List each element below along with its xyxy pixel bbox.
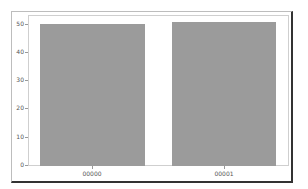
- x-tick-mark: [224, 166, 225, 169]
- y-tick-mark: [25, 137, 28, 138]
- y-tick-mark: [25, 165, 28, 166]
- y-tick-mark: [25, 52, 28, 53]
- y-tick-mark: [25, 108, 28, 109]
- bar-00001: [172, 22, 276, 166]
- y-tick-mark: [25, 24, 28, 25]
- bar-00000: [40, 24, 145, 166]
- x-tick-label: 00000: [62, 170, 122, 177]
- y-tick-label: 40: [0, 49, 24, 55]
- y-tick-label: 0: [0, 162, 24, 168]
- y-tick-label: 10: [0, 134, 24, 140]
- y-tick-label: 20: [0, 105, 24, 111]
- y-tick-mark: [25, 80, 28, 81]
- x-tick-mark: [92, 166, 93, 169]
- y-tick-label: 50: [0, 21, 24, 27]
- x-tick-label: 00001: [194, 170, 254, 177]
- y-tick-label: 30: [0, 77, 24, 83]
